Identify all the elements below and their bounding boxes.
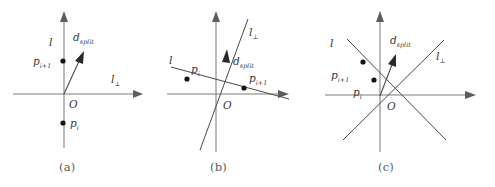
panel-c-label-origin: O bbox=[387, 100, 396, 112]
panel-c-d-split-vector bbox=[380, 62, 393, 96]
panel-a-vertical-axis-arrowhead bbox=[60, 11, 68, 22]
panel-b-vertical-axis-arrowhead bbox=[212, 11, 220, 22]
panel-c-line-l bbox=[347, 39, 446, 140]
panel-b-label-p-i-plus-1: pi+1 bbox=[249, 72, 267, 87]
panel-b-label-l-perp: l⊥ bbox=[249, 26, 259, 41]
panel-c-label-p-i-plus-1: pi+1 bbox=[331, 69, 349, 84]
panel-b: l l⊥ dsplit O pi pi+1 (b) bbox=[165, 0, 325, 187]
panel-a-label-l-perp: l⊥ bbox=[111, 73, 121, 88]
panel-a-label-p-i: pi bbox=[70, 117, 79, 132]
panel-c-point-p-i-plus-1 bbox=[360, 59, 365, 64]
panel-a-d-split-vector bbox=[64, 59, 80, 94]
panel-a-point-p-i bbox=[60, 120, 65, 125]
panel-b-point-p-i bbox=[184, 76, 189, 81]
panel-b-diagram: l l⊥ dsplit O pi pi+1 bbox=[165, 0, 325, 187]
panel-a-horizontal-axis-arrowhead bbox=[133, 90, 143, 98]
panel-c-horizontal-axis-arrowhead bbox=[465, 91, 476, 99]
panel-c-vertical-axis-arrowhead bbox=[376, 11, 384, 22]
panel-a-label-p-i-plus-1: pi+1 bbox=[33, 55, 51, 70]
panel-c-caption: (c) bbox=[378, 160, 394, 174]
panel-c-label-p-i: pi bbox=[353, 86, 362, 101]
panel-c-label-l: l bbox=[330, 37, 334, 50]
panel-c-diagram: l l⊥ dsplit O pi+1 pi bbox=[325, 0, 495, 187]
panel-c-label-d-split: dsplit bbox=[390, 34, 411, 49]
figure-container: l l⊥ dsplit O pi+1 pi (a) l bbox=[0, 0, 495, 187]
panel-a-caption: (a) bbox=[59, 160, 75, 174]
panel-b-d-split-arrowhead bbox=[222, 49, 230, 63]
panel-a-label-d-split: dsplit bbox=[73, 31, 94, 46]
panel-c-d-split-arrowhead bbox=[388, 54, 396, 67]
panel-b-caption: (b) bbox=[210, 160, 227, 174]
panel-c: l l⊥ dsplit O pi+1 pi (c) bbox=[325, 0, 495, 187]
panel-a-point-p-i-plus-1 bbox=[60, 58, 65, 63]
panel-b-label-d-split: dsplit bbox=[233, 55, 254, 70]
panel-a-label-l: l bbox=[49, 36, 53, 49]
panel-b-label-l: l bbox=[169, 54, 173, 67]
panel-b-point-p-i-plus-1 bbox=[241, 85, 246, 90]
panel-a: l l⊥ dsplit O pi+1 pi (a) bbox=[0, 0, 165, 187]
panel-c-point-p-i bbox=[371, 77, 376, 82]
panel-b-label-p-i: pi bbox=[191, 63, 200, 78]
panel-b-label-origin: O bbox=[223, 99, 232, 111]
panel-a-diagram: l l⊥ dsplit O pi+1 pi bbox=[0, 0, 165, 187]
panel-c-label-l-perp: l⊥ bbox=[436, 50, 446, 65]
panel-a-label-origin: O bbox=[69, 98, 78, 110]
panel-a-d-split-arrowhead bbox=[75, 51, 84, 64]
panel-b-line-l-perp bbox=[200, 19, 248, 150]
